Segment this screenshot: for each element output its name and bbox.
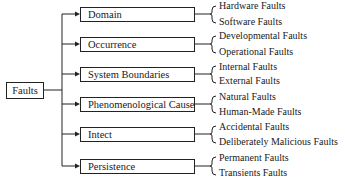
leaf-operational-faults: Operational Faults <box>219 46 293 58</box>
leaf-human-made-faults: Human-Made Faults <box>219 106 302 118</box>
category-persistence: Persistence <box>80 159 195 174</box>
leaf-hardware-faults: Hardware Faults <box>219 0 285 12</box>
category-label: Domain <box>88 9 122 20</box>
category-label: Persistence <box>88 161 135 172</box>
category-domain: Domain <box>80 7 195 22</box>
connector-lines <box>0 0 345 183</box>
leaf-software-faults: Software Faults <box>219 16 282 28</box>
root-label: Faults <box>12 85 38 96</box>
leaf-internal-faults: Internal Faults <box>219 61 277 73</box>
category-label: Intect <box>88 129 112 140</box>
leaf-deliberately-malicious-faults: Deliberately Malicious Faults <box>219 136 338 148</box>
category-system-boundaries: System Boundaries <box>80 67 195 82</box>
category-label: System Boundaries <box>88 69 169 80</box>
root-node-faults: Faults <box>6 82 44 99</box>
leaf-natural-faults: Natural Faults <box>219 91 276 103</box>
leaf-permanent-faults: Permanent Faults <box>219 152 289 164</box>
leaf-transients-faults: Transients Faults <box>219 167 287 179</box>
leaf-accidental-faults: Accidental Faults <box>219 121 289 133</box>
leaf-developmental-faults: Developmental Faults <box>219 30 307 42</box>
category-occurrence: Occurrence <box>80 37 195 52</box>
category-intect: Intect <box>80 127 195 142</box>
category-label: Occurrence <box>88 39 136 50</box>
leaf-external-faults: External Faults <box>219 75 280 87</box>
category-phenomenological-cause: Phenomenological Cause <box>80 97 195 112</box>
category-label: Phenomenological Cause <box>88 99 194 110</box>
